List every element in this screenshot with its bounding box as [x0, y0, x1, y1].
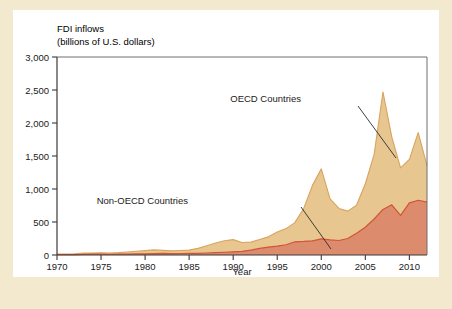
x-axis-label: Year: [232, 266, 251, 277]
y-tick-label: 2,000: [25, 118, 49, 129]
chart-subtitle: (billions of U.S. dollars): [57, 36, 155, 47]
chart-card: FDI inflows (billions of U.S. dollars) 0…: [13, 10, 439, 277]
y-axis-tick-marks: [52, 57, 57, 255]
x-tick-label: 1970: [46, 261, 67, 272]
annotation-label: Non-OECD Countries: [97, 195, 189, 206]
y-tick-label: 3,000: [25, 52, 49, 63]
x-tick-label: 1980: [135, 261, 156, 272]
x-tick-label: 2010: [399, 261, 420, 272]
x-tick-label: 1985: [179, 261, 200, 272]
chart-series-areas: [57, 92, 427, 255]
x-tick-label: 2005: [355, 261, 376, 272]
y-tick-label: 500: [33, 217, 49, 228]
y-tick-label: 2,500: [25, 85, 49, 96]
figure-container: FDI inflows (billions of U.S. dollars) 0…: [0, 0, 452, 309]
fdi-inflows-area-chart: FDI inflows (billions of U.S. dollars) 0…: [13, 10, 439, 277]
y-tick-label: 1,500: [25, 151, 49, 162]
y-tick-label: 0: [44, 250, 49, 261]
x-axis-tick-marks: [57, 255, 409, 260]
chart-title-block: FDI inflows (billions of U.S. dollars): [57, 23, 155, 47]
x-tick-label: 1975: [90, 261, 111, 272]
y-axis-tick-labels: 05001,0001,5002,0002,5003,000: [25, 52, 49, 261]
annotation-label: OECD Countries: [230, 93, 301, 104]
y-tick-label: 1,000: [25, 184, 49, 195]
x-tick-label: 2000: [311, 261, 332, 272]
chart-title: FDI inflows: [57, 23, 104, 34]
x-tick-label: 1995: [267, 261, 288, 272]
